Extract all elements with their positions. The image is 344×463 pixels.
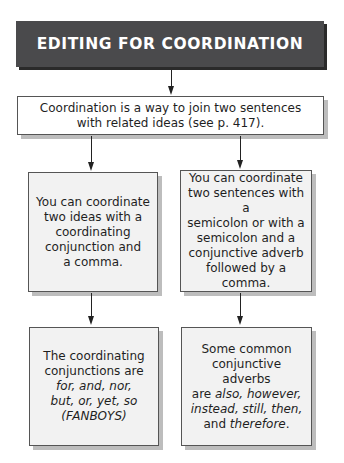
connector-line <box>240 136 241 161</box>
diagram-title-text: EDITING FOR COORDINATION <box>37 35 304 53</box>
arrow-down-icon <box>237 316 243 325</box>
intro-box: Coordination is a way to join two senten… <box>17 96 324 135</box>
arrow-down-icon <box>88 162 94 171</box>
arrow-down-icon <box>88 316 94 325</box>
semicolon-box: You can coordinate two sentences with a … <box>180 170 312 292</box>
connector-line <box>91 293 92 317</box>
arrow-down-icon <box>237 160 243 169</box>
conjunctive-adverbs-box: Some common conjunctive adverbs are also… <box>181 327 312 446</box>
connector-line <box>171 70 172 87</box>
diagram-title: EDITING FOR COORDINATION <box>16 21 324 67</box>
connector-line <box>240 293 241 317</box>
arrow-down-icon <box>168 86 174 95</box>
coordinating-conjunction-box: You can coordinate two ideas with a coor… <box>28 172 158 292</box>
intro-text: Coordination is a way to join two senten… <box>34 101 307 131</box>
connector-line <box>91 136 92 163</box>
fanboys-box: The coordinating conjunctions are for, a… <box>29 327 159 446</box>
